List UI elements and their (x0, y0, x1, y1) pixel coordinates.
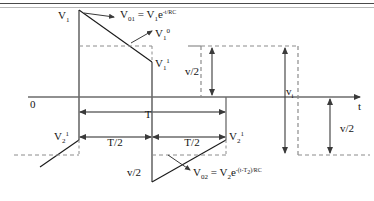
label-v2-left: V21 (54, 130, 69, 145)
input-square-wave (188, 46, 370, 155)
waveform-edges (79, 10, 226, 182)
figure-canvas: 0 t V1 V10 V11 V21 V21 T T/2 T/2 v/2 v/2… (0, 0, 374, 201)
rc-waveform-figure: 0 t V1 V10 V11 V21 V21 T T/2 T/2 v/2 v/2… (0, 0, 374, 201)
equation-v01: V01 = V1e-t/RC (120, 8, 176, 23)
label-half-period-right: T/2 (184, 136, 199, 148)
label-v2-right: V21 (229, 130, 244, 145)
leader-v1-zero (131, 31, 152, 43)
equation-v02: V02 = V2e-(t-T2)/RC (193, 166, 262, 181)
label-v-over-2-right: v/2 (340, 122, 354, 134)
origin-label: 0 (30, 98, 36, 110)
x-axis-label: t (358, 100, 361, 112)
label-v-over-2-lower-left: v/2 (127, 166, 141, 178)
label-half-period-left: T/2 (107, 136, 122, 148)
label-period-T: T (145, 108, 152, 120)
top-page-rule (0, 4, 374, 8)
label-v-over-2-upper: v/2 (185, 65, 199, 77)
label-v1-zero: V10 (155, 27, 170, 42)
label-v1: V1 (58, 9, 70, 24)
label-v1-one: V11 (155, 57, 170, 72)
